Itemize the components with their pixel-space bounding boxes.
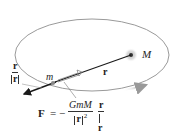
- orbit-figure: [0, 0, 188, 133]
- unit-vector-denominator: r: [10, 73, 20, 84]
- position-vector-r: [55, 55, 131, 82]
- force-numerator: GmM: [68, 100, 93, 112]
- force-unit-numerator: r: [98, 100, 104, 112]
- force-denominator: r2: [73, 112, 87, 125]
- force-unit-fraction: r r: [98, 100, 104, 133]
- force-unit-den-r: r: [98, 122, 102, 133]
- small-mass-label: m: [46, 72, 53, 82]
- equals-sign: =: [50, 108, 56, 119]
- force-magnitude-fraction: GmM r2: [68, 100, 93, 125]
- unit-vector-label: r r: [10, 61, 20, 84]
- unit-vector-den-r: r: [13, 73, 17, 84]
- unit-vector-numerator: r: [12, 61, 18, 73]
- orbit-diagram: M m r r r F = − GmM r2 r r: [0, 0, 188, 133]
- force-unit-denominator: r: [98, 112, 104, 133]
- position-vector-label: r: [103, 67, 107, 77]
- unit-vector-leader: [22, 84, 42, 88]
- force-den-exponent: 2: [84, 112, 88, 120]
- minus-sign: −: [59, 108, 65, 119]
- force-den-r: r: [76, 113, 80, 124]
- large-mass-label: M: [142, 49, 151, 60]
- force-symbol: F: [38, 108, 45, 119]
